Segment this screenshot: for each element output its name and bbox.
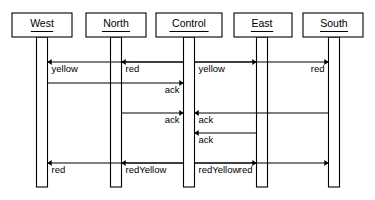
message-label: red xyxy=(126,63,140,74)
lifeline-header-east[interactable]: East xyxy=(234,13,292,37)
message-m3-yellow: yellow xyxy=(195,59,257,74)
activation-bars-layer xyxy=(37,37,340,187)
message-label: red xyxy=(52,164,66,175)
activation-bar xyxy=(37,37,48,187)
activation-bar xyxy=(329,37,340,187)
message-label: ack xyxy=(199,134,214,145)
lifeline-label: Control xyxy=(172,17,206,29)
sequence-diagram-svg: yellowredyellowredackackackackredredYell… xyxy=(0,0,375,200)
lifeline-label: East xyxy=(251,17,272,29)
message-m6-ack: ack xyxy=(122,110,184,125)
lifeline-header-south[interactable]: South xyxy=(303,13,363,37)
message-label: redYellow xyxy=(199,164,240,175)
arrowhead xyxy=(324,160,328,166)
lifeline-header-north[interactable]: North xyxy=(86,13,146,37)
message-label: red xyxy=(239,164,253,175)
message-label: redYellow xyxy=(126,164,167,175)
message-label: ack xyxy=(165,84,180,95)
message-label: red xyxy=(311,63,325,74)
message-label: yellow xyxy=(52,63,79,74)
message-m10-redYellow: redYellow xyxy=(122,160,184,175)
lifeline-activation-east xyxy=(257,37,268,187)
lifeline-activation-west xyxy=(37,37,48,187)
lifeline-activation-south xyxy=(329,37,340,187)
sequence-diagram-canvas: yellowredyellowredackackackackredredYell… xyxy=(0,0,375,200)
lifeline-header-west[interactable]: West xyxy=(12,13,72,37)
arrowhead xyxy=(324,59,328,65)
message-m8-ack: ack xyxy=(195,130,257,145)
arrowhead xyxy=(179,80,183,86)
activation-bar xyxy=(111,37,122,187)
lifeline-label: North xyxy=(103,17,129,29)
activation-bar xyxy=(184,37,195,187)
lifeline-header-control[interactable]: Control xyxy=(156,13,222,37)
activation-bar xyxy=(257,37,268,187)
lifeline-activation-north xyxy=(111,37,122,187)
lifeline-label: West xyxy=(30,17,54,29)
arrowhead xyxy=(179,110,183,116)
lifeline-label: South xyxy=(320,17,348,29)
message-label: yellow xyxy=(199,63,226,74)
message-label: ack xyxy=(199,114,214,125)
lifeline-activation-control xyxy=(184,37,195,187)
message-label: ack xyxy=(165,114,180,125)
message-m2-red: red xyxy=(122,59,184,74)
lifeline-headers-layer: WestNorthControlEastSouth xyxy=(12,13,363,37)
